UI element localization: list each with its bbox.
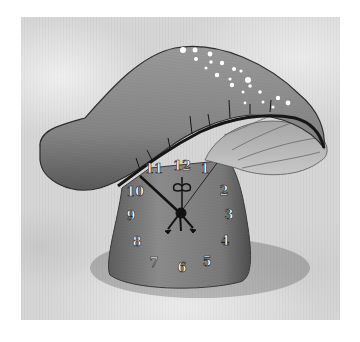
numeral-9: 9: [126, 208, 135, 223]
numeral-1: 1: [200, 161, 209, 176]
numeral-7: 7: [149, 255, 158, 270]
hand-hub: [176, 208, 186, 218]
mushroom-clock: 12 1 2 3 4 5 6 7 8 9 10 11: [0, 0, 360, 342]
numeral-10: 10: [126, 184, 144, 199]
numeral-4: 4: [220, 233, 229, 248]
numeral-6: 6: [177, 260, 186, 275]
numeral-5: 5: [202, 254, 211, 269]
numeral-3: 3: [224, 207, 233, 222]
numeral-11: 11: [145, 161, 163, 176]
numeral-2: 2: [219, 183, 228, 198]
numeral-8: 8: [132, 234, 141, 249]
numeral-12: 12: [173, 158, 191, 173]
